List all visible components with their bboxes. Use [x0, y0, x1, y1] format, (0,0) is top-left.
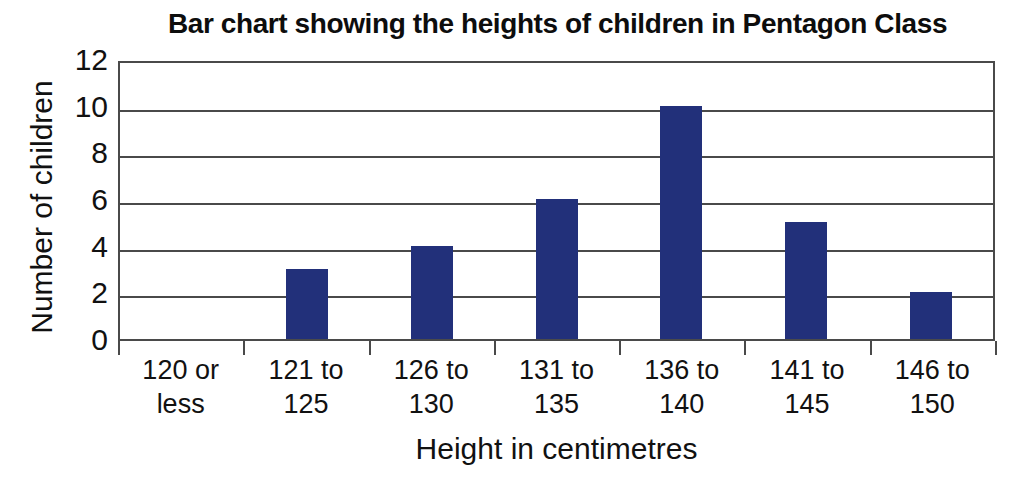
x-axis-category-label-line: 131 to	[519, 355, 594, 385]
x-axis-category-label-line: 120 or	[142, 355, 219, 385]
x-axis-category-label: 121 to125	[243, 354, 368, 422]
x-axis-category-label: 141 to145	[744, 354, 869, 422]
x-axis-category-label-line: 136 to	[644, 355, 719, 385]
x-axis-tick-mark	[619, 341, 621, 355]
x-axis-tick-mark	[118, 341, 120, 355]
x-axis-tick-mark	[369, 341, 371, 355]
x-axis-category-label-line: 121 to	[268, 355, 343, 385]
x-axis-category-label: 146 to150	[870, 354, 995, 422]
bar-slot	[245, 63, 370, 339]
x-axis-category-label-line: 125	[243, 388, 368, 422]
bar[interactable]	[785, 222, 827, 339]
bar[interactable]	[536, 199, 578, 339]
x-axis-category-label-line: 130	[369, 388, 494, 422]
x-axis-tick-mark	[494, 341, 496, 355]
bars-layer	[120, 63, 993, 339]
x-axis-category-label-line: 145	[744, 388, 869, 422]
x-axis-title: Height in centimetres	[118, 432, 995, 466]
y-axis-tick-label: 4	[60, 232, 108, 262]
bar[interactable]	[910, 292, 952, 339]
x-axis-category-label: 131 to135	[494, 354, 619, 422]
bar-chart: Bar chart showing the heights of childre…	[0, 0, 1014, 479]
x-axis-category-label-line: 150	[870, 388, 995, 422]
y-axis-tick-labels: 121086420	[46, 0, 108, 479]
x-axis-tick-mark	[243, 341, 245, 355]
y-axis-tick-label: 10	[60, 92, 108, 122]
bar[interactable]	[286, 269, 328, 339]
plot-area	[118, 61, 995, 341]
y-axis-tick-label: 8	[60, 138, 108, 168]
x-axis-category-label: 136 to140	[619, 354, 744, 422]
x-axis-category-label-line: 146 to	[895, 355, 970, 385]
bar[interactable]	[660, 106, 702, 339]
x-axis-tick-mark	[744, 341, 746, 355]
x-axis-tick-labels: 120 orless121 to125126 to130131 to135136…	[118, 354, 995, 422]
bar-slot	[744, 63, 869, 339]
x-axis-category-label: 120 orless	[118, 354, 243, 422]
y-axis-tick-label: 12	[60, 45, 108, 75]
x-axis-tick-mark	[995, 341, 997, 355]
bar[interactable]	[411, 246, 453, 339]
bar-slot	[120, 63, 245, 339]
x-axis-category-label: 126 to130	[369, 354, 494, 422]
x-axis-tick-marks	[118, 341, 995, 355]
chart-title: Bar chart showing the heights of childre…	[105, 8, 1010, 40]
bar-slot	[369, 63, 494, 339]
bar-slot	[619, 63, 744, 339]
x-axis-category-label-line: 126 to	[394, 355, 469, 385]
x-axis-category-label-line: 140	[619, 388, 744, 422]
y-axis-tick-label: 2	[60, 278, 108, 308]
x-axis-tick-mark	[870, 341, 872, 355]
x-axis-category-label-line: 141 to	[770, 355, 845, 385]
x-axis-category-label-line: 135	[494, 388, 619, 422]
bar-slot	[868, 63, 993, 339]
y-axis-tick-label: 6	[60, 185, 108, 215]
x-axis-category-label-line: less	[118, 388, 243, 422]
bar-slot	[494, 63, 619, 339]
y-axis-tick-label: 0	[60, 325, 108, 355]
